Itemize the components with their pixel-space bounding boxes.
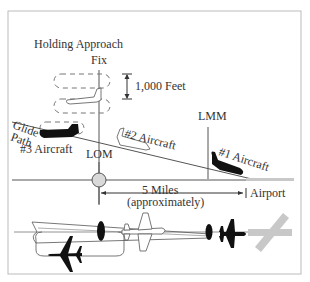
lom-marker [92,173,106,187]
airport-label: Airport [250,186,286,200]
distance-note: (approximately) [127,195,204,209]
plan-aircraft-holding-icon [48,236,82,272]
distance-arrowhead-left [101,191,106,195]
altitude-label: 1,000 Feet [135,79,186,93]
plan-outer-marker [97,221,105,241]
aircraft-3-label: #3 Aircraft [20,142,73,156]
holding-aircraft-outline [66,88,101,104]
holding-approach-diagram: Holding Approach Fix 1,000 Feet Glide Pa… [0,0,310,282]
plan-aircraft-outline [122,213,165,251]
holding-fix-label: Holding Approach [34,37,123,51]
aircraft-2-label: #2 Aircraft [123,126,178,152]
distance-arrowhead-right [238,191,243,195]
holding-oval-upper [54,74,110,88]
plan-aircraft-landing-icon [219,219,246,248]
altitude-dimension [122,74,132,99]
lom-label: LOM [86,147,113,161]
lmm-label: LMM [198,109,227,123]
plan-middle-marker [206,224,213,240]
aircraft-3-icon [40,124,80,138]
runway-profile [246,178,294,181]
plan-runway-icon [248,213,292,252]
holding-fix-label-line2: Fix [91,53,107,67]
